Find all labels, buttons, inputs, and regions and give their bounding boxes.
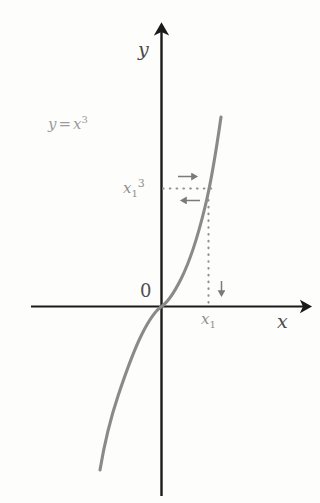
x-axis-label: x	[277, 312, 288, 331]
x1-cubed-superscript: 3	[138, 177, 145, 190]
equation-exponent: 3	[82, 114, 88, 125]
plot-canvas	[0, 0, 320, 503]
curve-equation-label: y=x3	[48, 115, 88, 132]
origin-label: 0	[140, 282, 151, 300]
y-axis-label: y	[138, 40, 149, 59]
x1-label: x1	[201, 312, 216, 330]
equation-equals: =	[56, 115, 73, 133]
x1-cubed-label: x13	[123, 178, 145, 199]
x1-subscript: 1	[209, 319, 215, 330]
cubic-function-figure: y x 0 y=x3 x13 x1	[0, 0, 320, 503]
equation-base: x	[73, 115, 81, 133]
